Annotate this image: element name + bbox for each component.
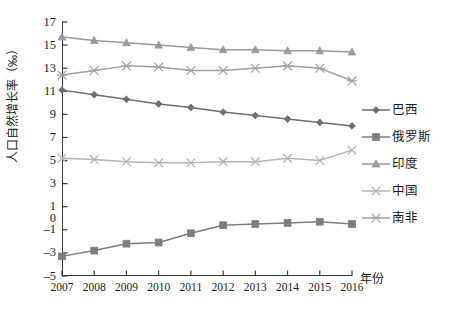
legend-item-巴西[interactable]: 巴西 [361, 96, 447, 123]
y-tick-label: 5 [50, 154, 56, 167]
legend-label: 印度 [391, 157, 418, 171]
chart-figure: 1715131197531–1–3–50 人口自然增长率（‰） 20072008… [0, 0, 450, 317]
series-1 [59, 218, 356, 259]
chart-canvas [62, 22, 352, 276]
series-4 [57, 61, 357, 85]
legend-item-俄罗斯[interactable]: 俄罗斯 [361, 123, 447, 150]
legend-label: 俄罗斯 [391, 130, 431, 144]
x-axis-tick-labels: 2007200820092010201120122013201420152016 [62, 281, 352, 297]
legend-label: 巴西 [391, 103, 418, 117]
y-tick-label: 13 [44, 62, 57, 75]
y-axis-title: 人口自然增长率（‰） [6, 43, 20, 163]
series-0 [59, 87, 356, 130]
y-tick-label: 17 [44, 16, 57, 29]
legend-label: 南非 [391, 211, 418, 225]
legend-marker-asterisk-icon [361, 211, 391, 225]
plot-area [62, 22, 352, 276]
legend-marker-triangle-icon [361, 157, 391, 171]
y-tick-label: 15 [44, 39, 57, 52]
legend-marker-x-icon [361, 184, 391, 198]
y-tick-label: 7 [50, 131, 56, 144]
axis-ticks [62, 22, 352, 276]
y-tick-label: –3 [44, 246, 57, 259]
legend-item-南非[interactable]: 南非 [361, 204, 447, 231]
legend-marker-diamond-icon [361, 103, 391, 117]
legend-item-印度[interactable]: 印度 [361, 150, 447, 177]
y-tick-label-zero: 0 [50, 212, 56, 225]
legend-label: 中国 [391, 184, 418, 198]
y-tick-label: 11 [44, 85, 56, 98]
y-tick-label: 9 [50, 108, 56, 121]
series-2 [58, 33, 356, 55]
y-tick-label: 3 [50, 177, 56, 190]
chart-legend: 巴西俄罗斯印度中国南非 [361, 96, 447, 231]
y-tick-label: –1 [44, 223, 57, 236]
legend-item-中国[interactable]: 中国 [361, 177, 447, 204]
legend-marker-square-icon [361, 130, 391, 144]
x-axis-title: 年份 [360, 272, 384, 286]
series-3 [58, 146, 356, 167]
